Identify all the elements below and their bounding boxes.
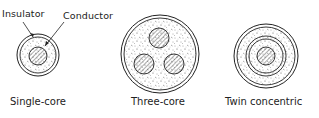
insulator-label: Insulator (2, 8, 45, 19)
three-core-caption: Three-core (131, 96, 185, 107)
single-core-cable (17, 34, 59, 76)
single-core-caption: Single-core (10, 96, 66, 107)
twin-concentric-caption: Twin concentric (225, 96, 302, 107)
conductor-label: Conductor (63, 10, 113, 21)
twin-concentric-cable (234, 24, 298, 88)
three-core-cable (121, 15, 199, 93)
